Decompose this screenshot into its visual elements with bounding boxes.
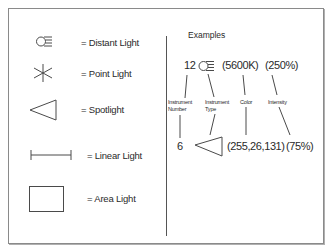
annotation-instrument-number: Instrument Number <box>168 99 192 113</box>
legend-label-spotlight: = Spotlight <box>81 104 124 115</box>
legend-label-distant-light: = Distant Light <box>81 37 139 48</box>
spotlight-icon <box>30 100 56 120</box>
examples-title: Examples <box>188 30 225 40</box>
legend-label-area-light: = Area Light <box>87 193 136 204</box>
example1-color: (5600K) <box>222 59 258 71</box>
area-light-icon <box>30 187 64 212</box>
annotation-intensity: Intensity <box>268 99 287 106</box>
point-light-icon <box>34 64 52 82</box>
linear-light-icon <box>31 150 71 160</box>
example2-intensity: (75%) <box>286 140 313 152</box>
legend-label-linear-light: = Linear Light <box>87 150 142 161</box>
distant-light-icon <box>37 37 53 46</box>
annotation-color: Color <box>240 99 252 106</box>
example-distant-light-icon <box>199 62 214 71</box>
legend-label-point-light: = Point Light <box>81 68 131 79</box>
annotation-instrument-type: Instrument Type <box>205 99 229 113</box>
example2-color: (255,26,131) <box>227 140 285 152</box>
example1-intensity: (250%) <box>265 59 298 71</box>
example1-number: 12 <box>184 59 195 71</box>
connector-lines <box>180 74 290 138</box>
diagram-graphics <box>0 0 334 252</box>
example-spotlight-icon <box>195 137 222 156</box>
example2-number: 6 <box>177 140 183 152</box>
